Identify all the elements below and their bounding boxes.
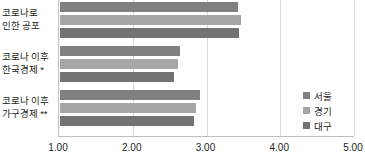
legend-label-gyeonggi: 경기 xyxy=(314,104,332,118)
bar-대구-3 xyxy=(60,116,194,126)
legend-item-gyeonggi[interactable]: 경기 xyxy=(303,103,361,118)
x-tick-label-1.00: 1.00 xyxy=(48,142,67,153)
bar-경기-1 xyxy=(60,15,241,25)
category-label-line2: 인한 공포 xyxy=(2,19,58,32)
legend-item-daegu[interactable]: 대구 xyxy=(303,118,361,133)
x-tick-label-5.00: 5.00 xyxy=(343,142,362,153)
legend-item-seoul[interactable]: 서울 xyxy=(303,88,361,103)
x-axis: 1.002.003.004.005.00 xyxy=(58,139,354,159)
category-label-line2: 가구경제 ** xyxy=(2,107,58,120)
bar-경기-3 xyxy=(60,103,196,113)
bar-대구-1 xyxy=(60,28,239,38)
category-label-line1: 코로나 이후 xyxy=(2,51,49,62)
chart-legend: 서울 경기 대구 xyxy=(303,88,361,133)
x-tick-label-3.00: 3.00 xyxy=(196,142,215,153)
legend-label-daegu: 대구 xyxy=(314,119,332,133)
bar-서울-3 xyxy=(60,90,200,100)
bar-경기-2 xyxy=(60,59,178,69)
category-label-line2: 한국경제 * xyxy=(2,63,58,76)
legend-swatch-daegu-icon xyxy=(303,122,310,129)
bar-서울-1 xyxy=(60,2,238,12)
x-tick-label-4.00: 4.00 xyxy=(270,142,289,153)
bar-대구-2 xyxy=(60,72,174,82)
category-label-household-economy: 코로나 이후 가구경제 ** xyxy=(2,94,58,120)
category-axis-labels: 코로나로 인한 공포 코로나 이후 한국경제 * 코로나 이후 가구경제 ** xyxy=(0,0,58,137)
legend-swatch-seoul-icon xyxy=(303,92,310,99)
category-label-fear-of-corona: 코로나로 인한 공포 xyxy=(2,6,58,32)
x-tick-label-2.00: 2.00 xyxy=(122,142,141,153)
bar-chart: 코로나로 인한 공포 코로나 이후 한국경제 * 코로나 이후 가구경제 ** … xyxy=(0,0,365,166)
gridline-4.00 xyxy=(280,0,281,136)
bar-서울-2 xyxy=(60,46,180,56)
category-label-line1: 코로나로 xyxy=(2,7,38,18)
category-label-korean-economy: 코로나 이후 한국경제 * xyxy=(2,50,58,76)
legend-swatch-gyeonggi-icon xyxy=(303,107,310,114)
legend-label-seoul: 서울 xyxy=(314,89,332,103)
category-label-line1: 코로나 이후 xyxy=(2,95,49,106)
